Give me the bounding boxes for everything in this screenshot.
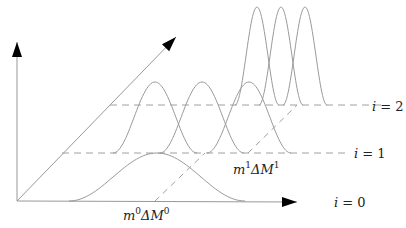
- multilevel-diagram: i = 0m0ΔM0i = 1m1ΔM1i = 2: [0, 0, 406, 228]
- level-1-curve-0: [113, 82, 197, 153]
- horizontal-axis-arrowhead-icon: [282, 197, 297, 207]
- level-2-label: i = 2: [372, 99, 404, 114]
- diagonal-dash-1: [248, 105, 297, 153]
- level-2-curve-2: [283, 7, 327, 105]
- level-0-curve-0: [69, 153, 245, 201]
- level-1-curve-1: [160, 82, 244, 153]
- horizontal-axis: [17, 201, 297, 202]
- level-1-label: i = 1: [354, 146, 386, 161]
- level-0-annotation: m0ΔM0: [123, 206, 170, 223]
- level-0-label: i = 0: [334, 195, 366, 210]
- vertical-axis-arrowhead-icon: [12, 42, 22, 57]
- level-labels: i = 0m0ΔM0i = 1m1ΔM1i = 2: [123, 99, 404, 223]
- diagonal-axis: [17, 37, 176, 201]
- level-1-annotation: m1ΔM1: [233, 160, 280, 177]
- level-2-curve-1: [259, 7, 303, 105]
- axes: [12, 37, 297, 207]
- level-curves: [69, 7, 327, 201]
- level-2-curve-0: [235, 7, 279, 105]
- level-1-curve-2: [207, 82, 291, 153]
